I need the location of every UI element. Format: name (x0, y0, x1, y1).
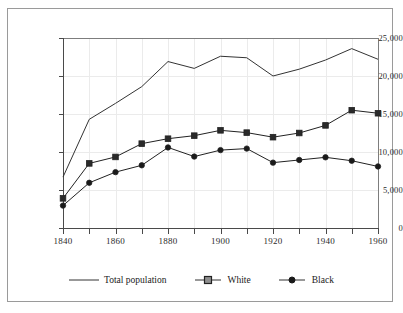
legend-label: Total population (104, 275, 166, 285)
data-point-marker (113, 154, 119, 160)
data-point-marker (113, 169, 118, 174)
legend-item-black[interactable]: Black (277, 274, 334, 286)
data-point-marker (270, 134, 276, 140)
data-point-marker (60, 203, 65, 208)
data-point-marker (323, 123, 329, 129)
data-point-marker (349, 107, 355, 113)
data-point-marker (139, 163, 144, 168)
data-point-marker (244, 146, 249, 151)
series-white (60, 107, 381, 201)
data-point-marker (165, 145, 170, 150)
data-point-marker (375, 164, 380, 169)
data-point-marker (349, 158, 354, 163)
data-point-marker (139, 141, 145, 147)
data-point-marker (86, 161, 92, 167)
data-point-marker (165, 136, 171, 142)
legend-label: White (228, 275, 251, 285)
legend-marker-circle-icon (277, 274, 307, 286)
data-point-marker (60, 196, 66, 202)
data-point-marker (87, 180, 92, 185)
chart-legend: Total populationWhiteBlack (0, 270, 403, 290)
data-point-marker (296, 130, 302, 136)
chart-page: 05,00010,00015,00020,00025,000 184018601… (0, 0, 403, 313)
series-black (60, 145, 380, 209)
data-point-marker (191, 133, 197, 139)
data-point-marker (270, 160, 275, 165)
legend-marker-square-icon (193, 274, 223, 286)
legend-item-white[interactable]: White (193, 274, 251, 286)
series-line (63, 110, 378, 198)
data-point-marker (218, 128, 224, 134)
legend-marker-line-icon (69, 274, 99, 286)
legend-item-total-population[interactable]: Total population (69, 274, 166, 286)
data-point-marker (323, 155, 328, 160)
data-series-layer (0, 0, 403, 313)
legend-label: Black (312, 275, 334, 285)
data-point-marker (297, 157, 302, 162)
data-point-marker (375, 110, 381, 116)
data-point-marker (218, 147, 223, 152)
series-line (63, 147, 378, 205)
data-point-marker (192, 154, 197, 159)
data-point-marker (244, 130, 250, 136)
chart-stage: 05,00010,00015,00020,00025,000 184018601… (0, 0, 403, 313)
